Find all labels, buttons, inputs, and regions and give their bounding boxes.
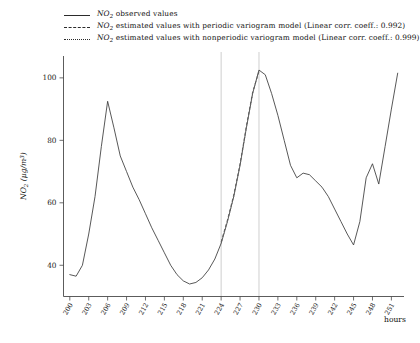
y-axis-ticks: 406080100 (43, 73, 64, 269)
y-tick-label-60: 60 (47, 198, 57, 207)
x-tick-label-242: 242 (326, 302, 339, 317)
y-axis-title: NO2 (µg/m3) (19, 152, 29, 201)
x-tick-label-248: 248 (364, 302, 377, 317)
x-tick-label-233: 233 (270, 302, 283, 317)
x-tick-label-239: 239 (307, 302, 320, 317)
x-tick-label-245: 245 (345, 302, 358, 317)
x-tick-label-227: 227 (232, 302, 245, 317)
y-tick-label-40: 40 (47, 261, 57, 270)
x-axis-ticks: 2002032062092122152182212242272302332362… (62, 297, 397, 317)
svg-text:NO2 (µg/m3): NO2 (µg/m3) (19, 152, 29, 201)
y-tick-label-80: 80 (47, 136, 57, 145)
x-tick-label-236: 236 (289, 302, 302, 317)
x-tick-label-203: 203 (80, 302, 93, 317)
x-tick-label-218: 218 (175, 302, 188, 317)
x-tick-label-221: 221 (194, 302, 207, 317)
x-tick-label-200: 200 (62, 302, 75, 317)
series-periodic-line (221, 72, 259, 242)
x-tick-label-224: 224 (213, 302, 226, 317)
x-tick-label-230: 230 (251, 302, 264, 317)
x-axis-title: hours (384, 315, 406, 324)
x-tick-label-212: 212 (137, 302, 150, 317)
series-observed-line (70, 70, 398, 284)
y-tick-label-100: 100 (43, 73, 57, 82)
x-tick-label-209: 209 (118, 302, 131, 317)
x-tick-label-215: 215 (156, 302, 169, 317)
series-nonperiodic-line (221, 70, 259, 243)
x-tick-label-206: 206 (99, 302, 112, 317)
